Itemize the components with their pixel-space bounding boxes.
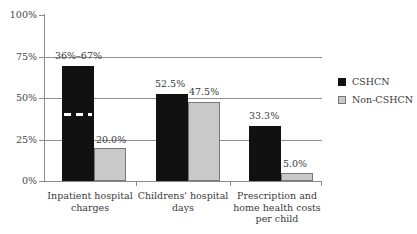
value-label-noncshcn-inpatient: 20.0% [96, 134, 126, 145]
value-label-noncshcn-prescription: 5.0% [283, 158, 307, 169]
x-axis-category-prescription-home-health: Prescription and home health costs per c… [231, 190, 323, 225]
x-axis-category-childrens-hospital-days: Childrens' hospital days [137, 190, 229, 213]
x-tick-group-2-3 [230, 181, 231, 186]
bar-noncshcn-prescription-home-health [281, 173, 313, 181]
category-line-2: days [137, 202, 229, 214]
category-line-1: Prescription and [231, 190, 323, 202]
x-axis-category-inpatient-hospital-charges: Inpatient hospital charges [44, 190, 136, 213]
legend-item-cshcn: CSHCN [338, 74, 413, 89]
category-line-1: Inpatient hospital [44, 190, 136, 202]
x-tick-group-1-2 [136, 181, 137, 186]
bar-noncshcn-inpatient-hospital-charges [94, 148, 126, 181]
x-tick-end [321, 181, 322, 186]
y-tick-0 [39, 181, 45, 182]
y-axis-label-75: 75% [0, 52, 37, 62]
value-label-noncshcn-childrens-days: 47.5% [189, 86, 219, 97]
value-label-cshcn-prescription: 33.3% [249, 110, 279, 121]
category-line-3: per child [231, 213, 323, 225]
y-axis-label-100: 100% [0, 10, 37, 20]
category-line-1: Childrens' hospital [137, 190, 229, 202]
y-tick-25 [39, 140, 45, 141]
bar-chart: 100% 75% 50% 25% 0% 36%–67% 20.0% 52.5% … [0, 0, 417, 234]
y-tick-50 [39, 98, 45, 99]
category-line-2: charges [44, 202, 136, 214]
value-label-cshcn-childrens-days: 52.5% [155, 78, 185, 89]
category-line-2: home health costs [231, 202, 323, 214]
bar-cshcn-prescription-home-health [249, 126, 281, 181]
legend-item-non-cshcn: Non-CSHCN [338, 92, 413, 107]
value-label-cshcn-inpatient: 36%–67% [55, 50, 102, 61]
legend-label-non-cshcn: Non-CSHCN [352, 94, 413, 105]
gray-square-icon [338, 96, 346, 104]
y-axis-label-25: 25% [0, 135, 37, 145]
range-lower-bound-dash-icon [64, 113, 92, 116]
black-square-icon [338, 78, 346, 86]
bar-cshcn-inpatient-hospital-charges [62, 66, 94, 181]
y-axis-label-50: 50% [0, 93, 37, 103]
bar-cshcn-childrens-hospital-days [156, 94, 188, 181]
legend-label-cshcn: CSHCN [352, 76, 390, 87]
y-tick-100 [39, 15, 45, 16]
y-axis-label-0: 0% [0, 176, 37, 186]
bar-noncshcn-childrens-hospital-days [188, 102, 220, 181]
x-axis-line [44, 181, 322, 182]
chart-legend: CSHCN Non-CSHCN [338, 74, 413, 110]
y-tick-75 [39, 57, 45, 58]
